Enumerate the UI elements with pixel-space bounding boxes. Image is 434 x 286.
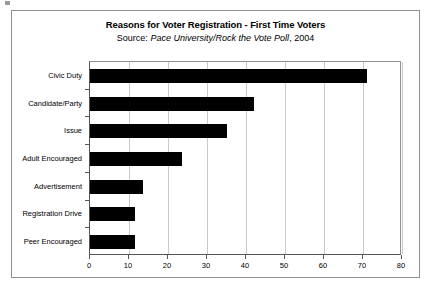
category-label-issue: Issue	[64, 126, 82, 135]
bar-peer-encouraged	[90, 235, 135, 249]
x-tick-20	[167, 255, 168, 259]
bar-adult-encouraged	[90, 152, 182, 166]
x-tick-10	[128, 255, 129, 259]
bar-issue	[90, 124, 227, 138]
bar-row	[90, 235, 400, 249]
category-label-adult-encouraged: Adult Encouraged	[22, 154, 82, 163]
x-tick-label-80: 80	[397, 261, 405, 270]
y-tick	[85, 89, 89, 90]
x-tick-70	[362, 255, 363, 259]
subtitle-prefix: Source:	[117, 33, 148, 43]
bar-row	[90, 207, 400, 221]
y-tick	[85, 200, 89, 201]
plot-area	[89, 61, 401, 255]
y-tick	[85, 144, 89, 145]
category-label-civic-duty: Civic Duty	[48, 70, 82, 79]
subtitle-year: , 2004	[289, 33, 314, 43]
category-label-registration-drive: Registration Drive	[22, 209, 82, 218]
y-tick	[85, 172, 89, 173]
bar-row	[90, 97, 400, 111]
subtitle-source-name: Pace University/Rock the Vote Poll	[150, 33, 289, 43]
x-tick-label-40: 40	[241, 261, 249, 270]
title-block: Reasons for Voter Registration - First T…	[12, 19, 419, 43]
x-tick-40	[245, 255, 246, 259]
x-tick-label-30: 30	[202, 261, 210, 270]
gridline-80	[402, 62, 403, 254]
x-tick-label-60: 60	[319, 261, 327, 270]
category-label-peer-encouraged: Peer Encouraged	[24, 237, 82, 246]
y-tick	[85, 227, 89, 228]
chart-title: Reasons for Voter Registration - First T…	[12, 19, 419, 30]
x-tick-label-50: 50	[280, 261, 288, 270]
x-tick-label-10: 10	[124, 261, 132, 270]
bar-civic-duty	[90, 69, 367, 83]
scan-artifact-speck	[5, 1, 10, 5]
bar-row	[90, 69, 400, 83]
x-tick-30	[206, 255, 207, 259]
x-tick-label-0: 0	[87, 261, 91, 270]
x-tick-label-20: 20	[163, 261, 171, 270]
x-tick-label-70: 70	[358, 261, 366, 270]
x-tick-50	[284, 255, 285, 259]
bar-registration-drive	[90, 207, 135, 221]
bar-row	[90, 152, 400, 166]
category-axis-labels: Civic DutyCandidate/PartyIssueAdult Enco…	[12, 61, 87, 255]
value-axis: 01020304050607080	[89, 255, 401, 277]
bar-row	[90, 124, 400, 138]
bars-layer	[90, 62, 400, 254]
chart-subtitle: Source: Pace University/Rock the Vote Po…	[12, 33, 419, 43]
x-tick-80	[401, 255, 402, 259]
chart-frame: Reasons for Voter Registration - First T…	[11, 10, 420, 278]
category-label-candidate-party: Candidate/Party	[28, 98, 82, 107]
category-label-advertisement: Advertisement	[34, 181, 82, 190]
bar-candidate-party	[90, 97, 254, 111]
bar-advertisement	[90, 180, 143, 194]
x-tick-0	[89, 255, 90, 259]
bar-row	[90, 180, 400, 194]
x-tick-60	[323, 255, 324, 259]
y-tick	[85, 116, 89, 117]
